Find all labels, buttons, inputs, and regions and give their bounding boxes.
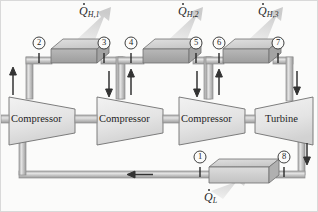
state-point-7: 7 xyxy=(272,37,284,49)
pipe-c1-to-hx1 xyxy=(26,57,52,99)
flow-arrow-up-hx3 xyxy=(216,69,223,95)
pipe-hx3-to-turbine xyxy=(273,57,293,101)
qh3-symbol: Q xyxy=(258,4,267,18)
compressor-2-label: Compressor xyxy=(99,113,150,124)
compressor-1-label: Compressor xyxy=(11,113,62,124)
turbine-label: Turbine xyxy=(265,113,298,124)
diagram-canvas xyxy=(1,1,318,212)
flow-arrow-down-hx2 xyxy=(194,71,201,97)
qdot-ql xyxy=(208,189,210,191)
ql-subscript: L xyxy=(213,196,217,205)
qh3-subscript: H,3 xyxy=(267,10,279,19)
state-point-1: 1 xyxy=(194,151,206,163)
flow-arrow-down-hx1 xyxy=(106,71,113,97)
state-point-5: 5 xyxy=(190,37,202,49)
qh1-subscript: H,1 xyxy=(88,10,100,19)
pipe-bottom-return xyxy=(19,171,211,178)
state-point-2: 2 xyxy=(33,37,45,49)
pipe-left-riser xyxy=(19,141,26,175)
pipe-c3-to-hx3 xyxy=(206,57,224,99)
gas-refrigeration-cycle-diagram: QH,1 QH,2 QH,3 QL Compressor Compressor … xyxy=(0,0,318,212)
state-point-4: 4 xyxy=(125,37,137,49)
heat-label-ql: QL xyxy=(204,190,217,205)
qh1-symbol: Q xyxy=(79,4,88,18)
flow-arrow-up-hx2 xyxy=(128,69,135,95)
flow-arrow-up-left xyxy=(10,67,17,95)
qh2-symbol: Q xyxy=(178,4,187,18)
compressor-3-label: Compressor xyxy=(181,113,232,124)
state-point-6: 6 xyxy=(213,37,225,49)
heat-label-qh1: QH,1 xyxy=(79,4,99,19)
ql-symbol: Q xyxy=(204,190,213,204)
flow-arrow-down-hx3 xyxy=(294,71,301,95)
heat-exchanger-low-temp xyxy=(209,159,279,183)
heat-label-qh3: QH,3 xyxy=(258,4,278,19)
state-point-8: 8 xyxy=(278,151,290,163)
state-point-3: 3 xyxy=(98,37,110,49)
qdot-qh1 xyxy=(83,3,85,5)
qdot-qh2 xyxy=(182,3,184,5)
qdot-qh3 xyxy=(262,3,264,5)
qh2-subscript: H,2 xyxy=(187,10,199,19)
heat-label-qh2: QH,2 xyxy=(178,4,198,19)
